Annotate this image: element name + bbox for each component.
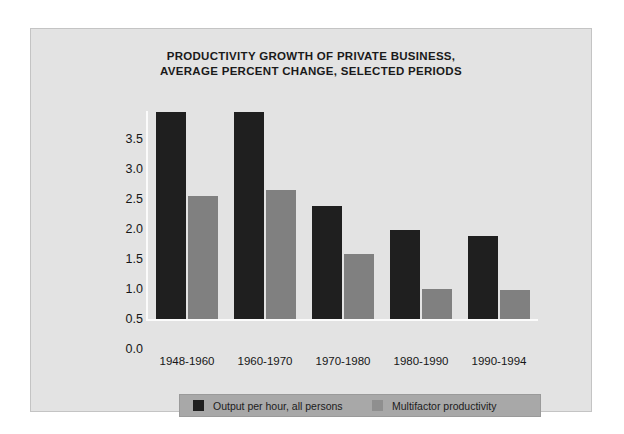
bar-group (226, 111, 304, 319)
bar-group (304, 111, 382, 319)
chart-panel: PRODUCTIVITY GROWTH OF PRIVATE BUSINESS,… (30, 28, 592, 412)
x-axis-tick-label: 1980-1990 (382, 355, 460, 367)
x-axis-tick-label: 1990-1994 (460, 355, 538, 367)
x-axis-tick-label: 1948-1960 (148, 355, 226, 367)
legend-swatch-icon (193, 400, 204, 411)
x-axis-tick-labels: 1948-19601960-19701970-19801980-19901990… (148, 355, 540, 373)
bar (312, 206, 342, 319)
y-axis-tick-label: 3.0 (99, 162, 143, 176)
y-axis-tick-label: 3.5 (99, 132, 143, 146)
chart-title-line-1: PRODUCTIVITY GROWTH OF PRIVATE BUSINESS, (31, 49, 591, 64)
bar (500, 290, 530, 319)
bars-container (148, 111, 538, 319)
bar (468, 236, 498, 319)
chart-legend: Output per hour, all personsMultifactor … (179, 394, 541, 417)
legend-entry: Multifactor productivity (372, 395, 496, 416)
legend-entry: Output per hour, all persons (193, 395, 343, 416)
bar (234, 112, 264, 319)
plot-area (146, 111, 538, 321)
bar (156, 112, 186, 319)
bar (188, 196, 218, 319)
y-axis-tick-label: 0.5 (99, 312, 143, 326)
bar-group (460, 111, 538, 319)
y-axis-tick-label: 0.0 (99, 342, 143, 356)
chart-title: PRODUCTIVITY GROWTH OF PRIVATE BUSINESS,… (31, 49, 591, 79)
bar (422, 289, 452, 319)
x-axis-tick-label: 1970-1980 (304, 355, 382, 367)
bar (344, 254, 374, 319)
x-axis-line (146, 319, 538, 321)
y-axis-tick-labels: 3.53.02.52.01.51.00.50.0 (99, 139, 143, 349)
x-axis-tick-label: 1960-1970 (226, 355, 304, 367)
chart-title-line-2: AVERAGE PERCENT CHANGE, SELECTED PERIODS (31, 64, 591, 79)
bar-group (382, 111, 460, 319)
y-axis-tick-label: 2.5 (99, 192, 143, 206)
y-axis-tick-label: 2.0 (99, 222, 143, 236)
bar (390, 230, 420, 319)
y-axis-tick-label: 1.0 (99, 282, 143, 296)
bar (266, 190, 296, 319)
legend-label: Output per hour, all persons (213, 400, 343, 412)
y-axis-tick-label: 1.5 (99, 252, 143, 266)
legend-label: Multifactor productivity (392, 400, 496, 412)
bar-group (148, 111, 226, 319)
legend-swatch-icon (372, 400, 383, 411)
